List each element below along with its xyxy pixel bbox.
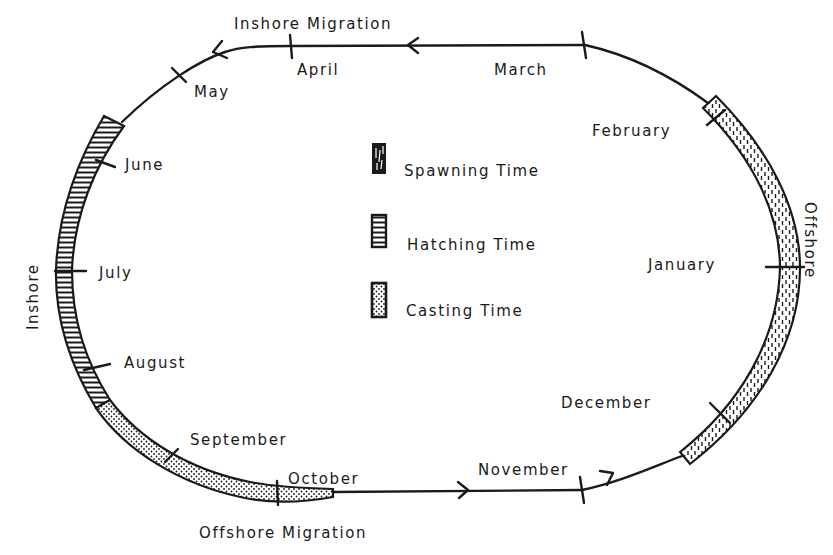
horizontal-stripes-pattern-icon [372, 215, 386, 247]
label-may: May [194, 83, 230, 101]
legend: Spawning Time Hatching Time Casting Time [372, 143, 539, 320]
tick-april [290, 35, 292, 58]
offshore-migration-label: Offshore Migration [199, 524, 367, 542]
hatching-band [56, 116, 124, 408]
migration-cycle-diagram: March April May June July August Septemb… [0, 0, 833, 555]
inshore-side-label: Inshore [24, 263, 42, 330]
dots-pattern-icon [372, 283, 386, 317]
month-labels: March April May June July August Septemb… [98, 61, 716, 488]
legend-item-hatching: Hatching Time [372, 215, 537, 254]
legend-label-spawning: Spawning Time [404, 162, 539, 180]
label-december: December [561, 394, 652, 412]
right-lower-line [582, 456, 682, 490]
right-upper-line [585, 45, 708, 103]
spawning-band [680, 96, 800, 464]
label-march: March [494, 61, 548, 79]
label-august: August [124, 354, 186, 372]
label-july: July [98, 264, 132, 282]
tick-october [277, 481, 278, 505]
label-april: April [297, 61, 339, 79]
legend-item-casting: Casting Time [372, 283, 523, 320]
label-june: June [124, 156, 164, 174]
cycle-path [122, 45, 708, 492]
label-october: October [288, 470, 359, 488]
direction-arrows [213, 38, 613, 498]
legend-item-spawning: Spawning Time [372, 143, 539, 180]
offshore-side-label: Offshore [801, 202, 819, 279]
inshore-migration-label: Inshore Migration [234, 15, 392, 33]
bottom-migration-line [333, 490, 582, 492]
top-migration-line [225, 45, 585, 52]
legend-label-casting: Casting Time [406, 302, 523, 320]
label-november: November [478, 461, 569, 479]
label-september: September [190, 431, 287, 449]
label-february: February [592, 122, 671, 140]
legend-label-hatching: Hatching Time [407, 236, 537, 254]
label-january: January [647, 256, 716, 274]
